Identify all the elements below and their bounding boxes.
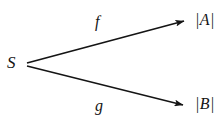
target-node-a-label: |A| [195,12,215,28]
edge-label-f: f [95,14,99,30]
mapping-diagram: S |A| |B| f g [0,0,224,122]
arrow-layer [0,0,224,122]
edge-arrow-f [27,21,184,63]
source-node-label: S [7,54,16,71]
target-node-b-label: |B| [195,96,215,112]
edge-label-g: g [95,98,103,114]
edge-arrow-g [27,66,183,105]
